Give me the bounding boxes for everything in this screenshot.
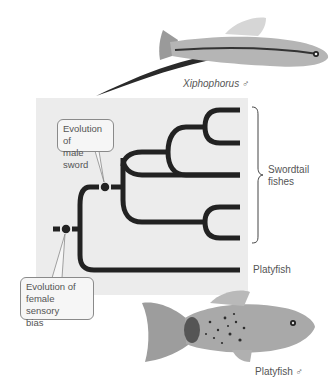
platyfish-caption: Platyfish ♂ (255, 366, 303, 378)
swordtail-brace (252, 107, 263, 243)
female-bias-dot (61, 224, 71, 234)
xiphophorus-caption: Xiphophorus ♂ (183, 78, 249, 90)
swordtail-group-label: Swordtail fishes (268, 164, 309, 188)
platyfish-leaf-label: Platyfish (253, 264, 291, 276)
platyfish-image (142, 290, 315, 362)
female-bias-pointer (52, 234, 65, 278)
callout-text: Evolution of (26, 281, 88, 293)
male-sword-dot (100, 182, 110, 192)
label-line: Swordtail (268, 164, 309, 176)
callout-text: Evolution of (63, 123, 108, 147)
callout-text: female sensory (26, 293, 88, 317)
callout-female-sensory-bias: Evolution of female sensory bias (20, 277, 94, 320)
callout-male-sword: Evolution of male sword (57, 119, 114, 152)
label-line: fishes (268, 176, 309, 188)
callout-text: male sword (63, 147, 108, 171)
callout-text: bias (26, 317, 88, 329)
